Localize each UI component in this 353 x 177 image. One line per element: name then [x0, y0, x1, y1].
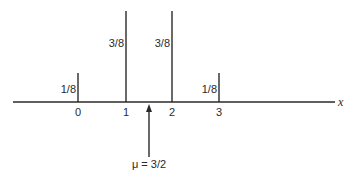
tick-label-2: 2 [169, 106, 175, 118]
mean-label: μ = 3/2 [132, 158, 166, 170]
spike-label-1: 3/8 [109, 37, 124, 49]
spike-label-3: 1/8 [202, 83, 217, 95]
spike-label-2: 3/8 [155, 37, 170, 49]
pmf-chart: x 1/8 3/8 3/8 1/8 0 1 2 3 μ = 3/2 [0, 0, 353, 177]
mean-arrow-icon [146, 104, 152, 157]
tick-label-0: 0 [75, 106, 81, 118]
x-axis-label: x [337, 95, 344, 109]
tick-label-3: 3 [216, 106, 222, 118]
tick-label-1: 1 [123, 106, 129, 118]
spike-label-0: 1/8 [61, 83, 76, 95]
